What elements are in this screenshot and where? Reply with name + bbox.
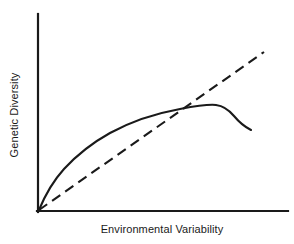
y-axis-label-container: Genetic Diversity xyxy=(0,0,28,244)
y-axis-label: Genetic Diversity xyxy=(9,73,20,158)
chart-plot-area xyxy=(0,0,294,244)
series-saturating-curve xyxy=(39,105,251,210)
x-axis-label: Environmental Variability xyxy=(0,224,294,235)
chart-figure: Genetic Diversity Environmental Variabil… xyxy=(0,0,294,244)
series-linear-reference xyxy=(39,52,264,210)
